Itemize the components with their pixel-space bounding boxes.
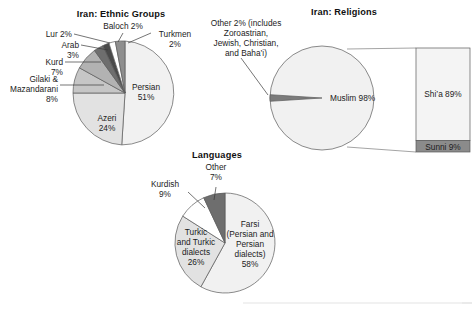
religions-breakout-bar: Shi’a 89% Sunni 9%	[416, 48, 470, 152]
label-azeri: Azeri 24%	[98, 113, 117, 133]
label-lur: Lur 2%	[46, 29, 73, 39]
svg-text:51%: 51%	[138, 92, 155, 102]
ethnic-groups-title: Iran: Ethnic Groups	[77, 9, 166, 19]
leader-lur	[74, 34, 110, 43]
svg-text:Zoroastrian,: Zoroastrian,	[224, 28, 268, 38]
svg-text:8%: 8%	[46, 94, 59, 104]
label-turkmen: Turkmen 2%	[159, 29, 192, 49]
svg-text:Kurdish: Kurdish	[151, 179, 180, 189]
svg-text:dialects: dialects	[182, 247, 210, 257]
svg-text:(Persian and: (Persian and	[226, 229, 273, 239]
svg-text:Turkic: Turkic	[185, 227, 207, 237]
label-other-religions: Other 2% (includes Zoroastrian, Jewish, …	[211, 18, 282, 58]
svg-text:and Baha’i): and Baha’i)	[225, 48, 267, 58]
label-muslim: Muslim 98%	[330, 93, 376, 103]
label-baloch: Baloch 2%	[103, 21, 143, 31]
leader-other-religions	[241, 58, 268, 95]
infographic-canvas: Iran: Ethnic Groups	[0, 0, 472, 310]
languages-title: Languages	[192, 150, 242, 160]
svg-text:Baloch 2%: Baloch 2%	[103, 21, 143, 31]
svg-text:7%: 7%	[210, 172, 223, 182]
svg-text:Azeri: Azeri	[98, 113, 117, 123]
label-kurdish: Kurdish 9%	[151, 179, 180, 199]
breakout-label-sunni: Sunni 9%	[425, 142, 461, 152]
svg-text:2%: 2%	[169, 39, 182, 49]
svg-text:26%: 26%	[188, 257, 205, 267]
charts-figure: Iran: Ethnic Groups	[0, 0, 472, 310]
svg-text:Arab: Arab	[61, 40, 79, 50]
label-arab: Arab 3%	[61, 40, 79, 60]
svg-text:Kurd: Kurd	[45, 57, 63, 67]
svg-text:Farsi: Farsi	[241, 219, 260, 229]
religions-title: Iran: Religions	[311, 7, 377, 17]
label-other-languages: Other 7%	[206, 162, 227, 182]
svg-text:7%: 7%	[51, 67, 64, 77]
chart-ethnic-groups: Iran: Ethnic Groups	[10, 9, 192, 145]
svg-text:24%: 24%	[99, 123, 116, 133]
callout-line-bottom	[347, 147, 416, 152]
svg-text:Persian: Persian	[236, 239, 265, 249]
svg-text:dialects): dialects)	[235, 249, 266, 259]
svg-text:Persian: Persian	[132, 82, 161, 92]
svg-text:9%: 9%	[159, 189, 172, 199]
svg-text:Jewish, Christian,: Jewish, Christian,	[213, 38, 278, 48]
svg-text:Lur 2%: Lur 2%	[46, 29, 73, 39]
svg-text:3%: 3%	[67, 50, 80, 60]
leader-turkmen	[128, 33, 151, 43]
svg-text:Other 2% (includes: Other 2% (includes	[211, 18, 282, 28]
svg-text:Mazandarani: Mazandarani	[10, 84, 58, 94]
svg-text:58%: 58%	[242, 259, 259, 269]
label-gilaki-mazandarani: Gilaki & Mazandarani 8%	[10, 74, 59, 104]
svg-text:Turkmen: Turkmen	[159, 29, 192, 39]
chart-religions: Iran: Religions Muslim 98% Other 2% (inc…	[211, 7, 470, 152]
callout-line-top	[347, 48, 416, 49]
svg-text:Other: Other	[206, 162, 227, 172]
breakout-label-shia: Shi’a 89%	[424, 89, 462, 99]
chart-languages: Languages Farsi (Persian and Persian dia…	[151, 150, 275, 293]
svg-text:and Turkic: and Turkic	[177, 237, 215, 247]
